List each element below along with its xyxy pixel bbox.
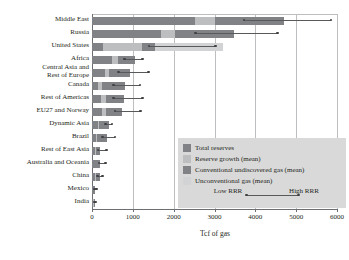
legend-label-low-rrr: Low RRR [211, 187, 245, 196]
rrr-dot-high [101, 175, 104, 178]
legend-swatch-total-reserves [183, 144, 191, 152]
category-label: Canada [3, 81, 89, 89]
rrr-line [149, 46, 215, 47]
bar-segment [195, 17, 215, 25]
rrr-line [195, 33, 277, 34]
bar-segment [92, 30, 161, 38]
rrr-dot-high [95, 188, 98, 191]
x-tick-5000 [296, 209, 297, 212]
legend-rrr-dot-high [297, 194, 300, 197]
rrr-whisker [113, 95, 142, 103]
rrr-dot-high [105, 149, 108, 152]
bar-segment [103, 43, 142, 51]
rrr-line [113, 85, 140, 86]
bar-row [92, 121, 337, 129]
rrr-whisker [244, 17, 331, 25]
legend-rrr-key: Low RRR High RRR [183, 187, 341, 209]
chart-legend: Total reserves Reserve growth (mean) Con… [178, 138, 346, 208]
legend-entry-unconventional: Unconventional gas (mean) [183, 175, 341, 186]
category-label: Brazil [3, 133, 89, 141]
rrr-dot-high [276, 32, 279, 35]
x-tick-0 [92, 209, 93, 212]
category-label: Central Asia and Rest of Europe [3, 64, 89, 79]
category-label: Australia and Oceania [3, 159, 89, 167]
x-tick-label-5000: 5000 [289, 213, 303, 222]
category-label: Mexico [3, 185, 89, 193]
gas-resources-chart: 0100020003000400050006000 Middle EastRus… [0, 0, 349, 260]
legend-swatch-reserve-growth [183, 155, 191, 163]
legend-swatch-unconventional [183, 177, 191, 185]
rrr-dot-high [141, 97, 144, 100]
rrr-whisker [98, 147, 106, 155]
rrr-whisker [115, 108, 141, 116]
rrr-whisker [94, 199, 96, 207]
rrr-whisker [102, 134, 115, 142]
category-label: Russia [3, 29, 89, 37]
rrr-dot-low [112, 84, 115, 87]
x-tick-label-2000: 2000 [167, 213, 181, 222]
legend-label-reserve-growth: Reserve growth (mean) [195, 155, 261, 163]
rrr-whisker [98, 173, 103, 181]
rrr-whisker [125, 56, 143, 64]
rrr-whisker [113, 82, 140, 90]
legend-label-total-reserves: Total reserves [195, 144, 234, 152]
rrr-line [244, 20, 331, 21]
legend-label-conventional-undiscovered: Conventional undiscovered gas (mean) [195, 166, 304, 174]
rrr-line [115, 111, 141, 112]
rrr-line [125, 59, 143, 60]
x-tick-2000 [174, 209, 175, 212]
x-tick-label-4000: 4000 [248, 213, 262, 222]
x-tick-6000 [337, 209, 338, 212]
rrr-line [119, 72, 149, 73]
category-label: EU27 and Norway [3, 107, 89, 115]
rrr-dot-low [101, 136, 104, 139]
rrr-line [102, 137, 115, 138]
rrr-whisker [94, 186, 96, 194]
rrr-line [113, 98, 142, 99]
category-label: India [3, 198, 89, 206]
rrr-whisker [149, 43, 215, 51]
category-label: Africa [3, 55, 89, 63]
legend-swatch-conventional-undiscovered [183, 166, 191, 174]
rrr-dot-high [139, 110, 142, 113]
rrr-dot-high [141, 58, 144, 61]
bar-segment [92, 43, 103, 51]
rrr-whisker [119, 69, 149, 77]
category-label: China [3, 172, 89, 180]
category-label: Middle East [3, 16, 89, 24]
rrr-whisker [195, 30, 277, 38]
legend-entry-reserve-growth: Reserve growth (mean) [183, 153, 341, 164]
legend-rrr-line [246, 195, 299, 196]
bar-segment [92, 56, 112, 64]
category-label: United States [3, 42, 89, 50]
rrr-dot-high [147, 71, 150, 74]
rrr-whisker [99, 160, 106, 168]
legend-entry-total-reserves: Total reserves [183, 142, 341, 153]
x-tick-label-3000: 3000 [208, 213, 222, 222]
category-label: Rest of East Asia [3, 146, 89, 154]
bar-segment [92, 69, 105, 77]
x-tick-label-6000: 6000 [330, 213, 344, 222]
rrr-dot-low [112, 97, 115, 100]
bar-segment [161, 30, 175, 38]
rrr-dot-low [96, 175, 99, 178]
rrr-dot-high [104, 162, 107, 165]
rrr-dot-low [117, 71, 120, 74]
rrr-whisker [105, 121, 112, 129]
rrr-dot-low [104, 123, 107, 126]
x-axis-title: Tcf of gas [92, 229, 338, 238]
bar-segment [92, 17, 195, 25]
rrr-dot-high [214, 45, 217, 48]
rrr-dot-low [123, 58, 126, 61]
rrr-dot-low [194, 32, 197, 35]
x-tick-3000 [215, 209, 216, 212]
category-label: Rest of Americas [3, 94, 89, 102]
x-tick-1000 [133, 209, 134, 212]
x-tick-label-0: 0 [90, 213, 94, 222]
legend-entry-conventional-undiscovered: Conventional undiscovered gas (mean) [183, 164, 341, 175]
legend-rrr-dot-low [245, 194, 248, 197]
bar-segment [92, 95, 101, 103]
x-tick-label-1000: 1000 [126, 213, 140, 222]
legend-label-unconventional: Unconventional gas (mean) [195, 177, 272, 185]
x-tick-4000 [255, 209, 256, 212]
